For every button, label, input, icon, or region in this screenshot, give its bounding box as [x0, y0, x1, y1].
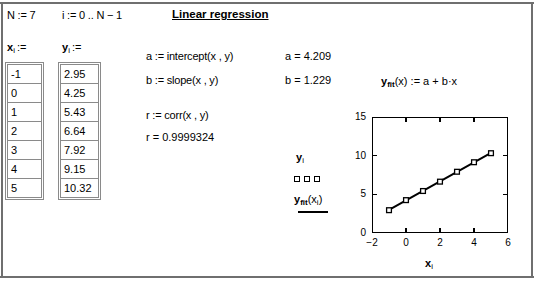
- corr-definition[interactable]: r := corr(x , y): [146, 110, 209, 121]
- legend-entry-fit: yfit(xi): [294, 194, 328, 207]
- data-point-marker: [472, 160, 477, 165]
- legend-data-sub: i: [302, 156, 304, 165]
- x-tick-label: 6: [497, 238, 519, 248]
- data-point-marker: [404, 198, 409, 203]
- y-value-cell[interactable]: 9.15: [60, 159, 99, 179]
- x-tick: [405, 228, 407, 233]
- y-tick-right: [503, 194, 508, 196]
- legend-line-sample: [298, 211, 328, 213]
- page-border-right: [531, 2, 533, 276]
- y-value-cell[interactable]: 7.92: [60, 140, 99, 160]
- corr-value: r = 0.9999324: [146, 132, 214, 143]
- y-vector-label-assign: :=: [72, 41, 81, 53]
- data-point-marker: [421, 189, 426, 194]
- x-tick-top: [473, 117, 475, 122]
- y-value-cell[interactable]: 10.32: [60, 178, 99, 198]
- y-value-cell[interactable]: 4.25: [60, 83, 99, 103]
- legend-fit-close: ): [319, 193, 323, 205]
- x-tick-label: −2: [361, 238, 383, 248]
- x-tick-top: [405, 117, 407, 122]
- legend-square-marker-2: [304, 176, 310, 182]
- x-axis-title-sub: i: [431, 262, 433, 271]
- x-value-cell[interactable]: 3: [7, 140, 42, 160]
- y-vector-label-sub: i: [68, 46, 70, 55]
- data-point-marker: [387, 208, 392, 213]
- intercept-value: a = 4.209: [285, 51, 331, 62]
- legend-fit-open: (x: [308, 193, 317, 205]
- page-border-top: [0, 2, 534, 4]
- y-tick-label: 0: [344, 228, 366, 238]
- y-tick-label: 10: [344, 151, 366, 161]
- x-value-cell[interactable]: 1: [7, 102, 42, 122]
- plot-canvas: [372, 117, 508, 233]
- definition-i[interactable]: i := 0 .. N − 1: [62, 10, 122, 21]
- x-vector-table[interactable]: -1012345: [5, 62, 44, 200]
- slope-definition[interactable]: b := slope(x , y): [146, 75, 218, 86]
- x-vector-label-assign: :=: [17, 41, 26, 53]
- legend-square-marker-1: [294, 176, 300, 182]
- y-value-cell[interactable]: 5.43: [60, 102, 99, 122]
- x-tick-label: 0: [395, 238, 417, 248]
- x-tick: [473, 228, 475, 233]
- data-point-marker: [489, 151, 494, 156]
- y-value-cell[interactable]: 6.64: [60, 121, 99, 141]
- y-tick: [372, 194, 377, 196]
- slope-value: b = 1.229: [285, 75, 331, 86]
- x-tick: [439, 228, 441, 233]
- y-tick: [372, 155, 377, 157]
- page-border-bottom: [0, 276, 534, 278]
- x-tick-label: 4: [463, 238, 485, 248]
- y-value-cell[interactable]: 2.95: [60, 64, 99, 84]
- intercept-definition[interactable]: a := intercept(x , y): [146, 51, 233, 62]
- x-value-cell[interactable]: -1: [7, 64, 42, 84]
- x-axis-title: xi: [425, 258, 433, 271]
- x-value-cell[interactable]: 5: [7, 178, 42, 198]
- page-title: Linear regression: [172, 9, 269, 20]
- y-tick-right: [503, 155, 508, 157]
- x-value-cell[interactable]: 2: [7, 121, 42, 141]
- x-value-cell[interactable]: 4: [7, 159, 42, 179]
- x-vector-label-sub: i: [13, 46, 15, 55]
- page-border-left: [1, 2, 3, 276]
- x-vector-label[interactable]: xi:=: [7, 42, 26, 55]
- legend-marker-row: [294, 168, 328, 186]
- chart-legend: yi yfit(xi): [292, 152, 328, 213]
- y-vector-table[interactable]: 2.954.255.436.647.929.1510.32: [58, 62, 101, 200]
- x-value-cell[interactable]: 0: [7, 83, 42, 103]
- legend-entry-data: yi: [296, 152, 328, 165]
- regression-chart[interactable]: [372, 117, 508, 233]
- y-vector-label[interactable]: yi:=: [62, 42, 81, 55]
- legend-square-marker-3: [314, 176, 320, 182]
- yfit-rest: (x) := a + b·x: [395, 75, 457, 87]
- y-tick-label: 5: [344, 189, 366, 199]
- data-point-marker: [438, 179, 443, 184]
- x-tick-label: 2: [429, 238, 451, 248]
- mathcad-worksheet: N := 7 i := 0 .. N − 1 Linear regression…: [0, 0, 534, 283]
- yfit-definition[interactable]: yfit(x) := a + b·x: [381, 76, 457, 89]
- legend-fit-sub: fit: [300, 198, 308, 207]
- yfit-sub: fit: [387, 80, 395, 89]
- data-point-marker: [455, 169, 460, 174]
- x-tick-top: [439, 117, 441, 122]
- y-tick-label: 15: [344, 112, 366, 122]
- definition-n[interactable]: N := 7: [7, 10, 35, 21]
